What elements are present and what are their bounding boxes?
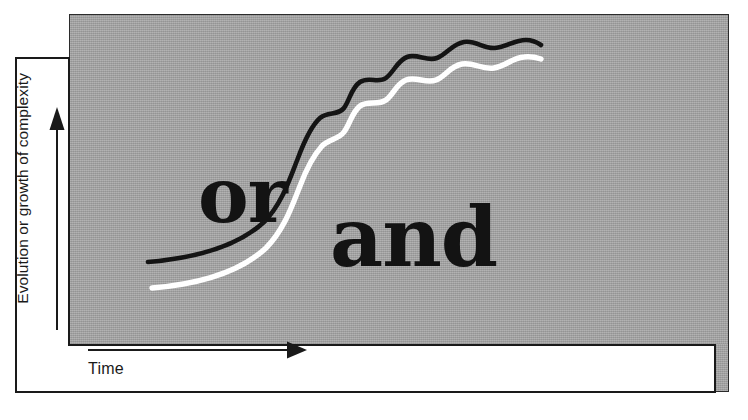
figure-canvas: or and Evolution or growth of complexity… [0, 0, 748, 420]
axis-frame-outline [16, 58, 715, 392]
x-axis-label: Time [88, 360, 124, 378]
axis-frame [15, 57, 716, 393]
y-axis-label: Evolution or growth of complexity [14, 70, 32, 370]
